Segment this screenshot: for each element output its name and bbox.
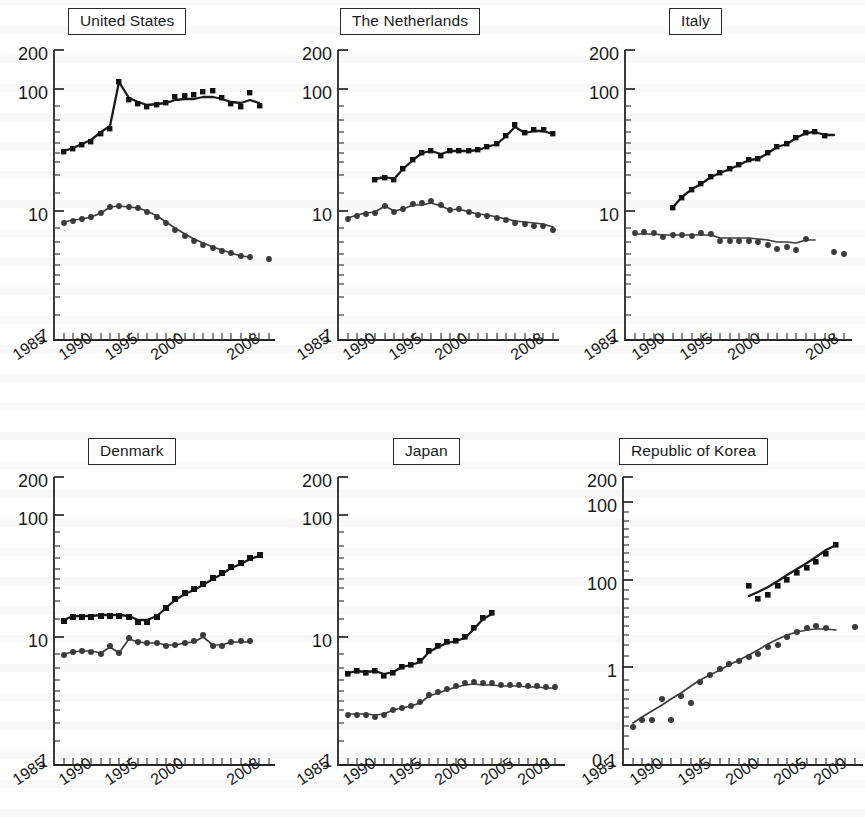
ytick-label: 100 <box>577 84 619 102</box>
panel-title-the-netherlands: The Netherlands <box>340 8 480 35</box>
ytick-label: 100 <box>290 84 332 102</box>
panel-title-denmark: Denmark <box>88 438 176 465</box>
axis-ticks <box>54 50 269 340</box>
plot-area-japan <box>337 477 567 770</box>
plot-area-republic-of-korea <box>622 477 865 770</box>
data-points-upper <box>61 552 263 625</box>
ytick-label: 10 <box>290 206 332 224</box>
plot-area-the-netherlands <box>337 50 562 345</box>
panel-the-netherlands: The Netherlands 200 100 10 1 <box>290 0 575 410</box>
panel-republic-of-korea: Republic of Korea 200 100 100 1 0.1 <box>575 410 865 817</box>
data-points-upper <box>670 129 827 210</box>
trend-line-upper <box>673 132 834 207</box>
ytick-label: 200 <box>575 472 617 490</box>
trend-line-lower <box>348 684 555 715</box>
ytick-label: 200 <box>6 472 48 490</box>
ytick-label: 100 <box>290 510 332 528</box>
axis-ticks <box>338 477 555 765</box>
axis-ticks <box>338 50 553 340</box>
panel-title-italy: Italy <box>669 8 722 35</box>
ytick-label: 100 <box>6 510 48 528</box>
plot-area-italy <box>624 50 854 345</box>
data-points-upper <box>345 610 495 679</box>
ytick-label: 100 <box>6 84 48 102</box>
panel-italy: Italy 200 100 10 1 <box>575 0 865 410</box>
panel-grid: United States 200 100 10 1 <box>0 0 865 817</box>
axis-ticks <box>623 477 855 765</box>
panel-title-republic-of-korea: Republic of Korea <box>619 438 768 465</box>
trend-line-upper <box>348 614 492 674</box>
ytick-label: 200 <box>290 472 332 490</box>
panel-title-united-states: United States <box>68 8 186 35</box>
panel-title-japan: Japan <box>393 438 460 465</box>
trend-line-upper <box>749 545 836 596</box>
panel-denmark: Denmark 200 100 10 1 <box>0 410 290 817</box>
ytick-label: 100 <box>575 575 617 593</box>
data-points-upper <box>61 79 262 154</box>
ytick-label: 10 <box>6 206 48 224</box>
data-points-lower <box>61 203 272 262</box>
data-points-lower <box>61 632 253 658</box>
panel-japan: Japan 200 100 10 1 <box>290 410 575 817</box>
trend-line-lower <box>633 629 836 723</box>
data-points-lower <box>632 229 847 257</box>
data-points-lower <box>345 679 558 720</box>
ytick-label: 10 <box>290 632 332 650</box>
plot-area-denmark <box>53 477 278 770</box>
data-points-lower <box>630 623 858 730</box>
ytick-label: 200 <box>6 45 48 63</box>
ytick-label: 200 <box>290 45 332 63</box>
data-points-lower <box>345 198 556 233</box>
ytick-label: 100 <box>575 497 617 515</box>
panel-united-states: United States 200 100 10 1 <box>0 0 290 410</box>
ytick-label: 10 <box>6 632 48 650</box>
ytick-label: 10 <box>577 206 619 224</box>
axis-ticks <box>54 477 269 765</box>
ytick-label: 1 <box>575 662 617 680</box>
ytick-label: 200 <box>577 45 619 63</box>
plot-area-united-states <box>53 50 278 345</box>
axis-ticks <box>625 50 844 340</box>
